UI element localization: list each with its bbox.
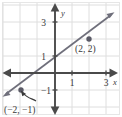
- y-axis-label: y: [60, 8, 65, 18]
- point-neg2-neg1: [18, 87, 23, 92]
- x-tick-label-3: 3: [104, 78, 109, 88]
- x-axis-label: x: [112, 77, 117, 87]
- point-label-2-2: (2, 2): [75, 44, 96, 55]
- coordinate-plane-figure: 3 1 −1 1 3 y x (2, 2) (−2, −1): [0, 0, 122, 117]
- y-tick-label-3: 3: [41, 18, 46, 28]
- y-tick-label-1: 1: [41, 52, 46, 62]
- x-tick-label-1: 1: [70, 78, 75, 88]
- graph-svg: 3 1 −1 1 3 y x (2, 2) (−2, −1): [0, 0, 122, 117]
- y-tick-label-neg1: −1: [41, 86, 51, 96]
- point-label-neg2-neg1: (−2, −1): [4, 105, 35, 116]
- point-2-2: [86, 36, 91, 41]
